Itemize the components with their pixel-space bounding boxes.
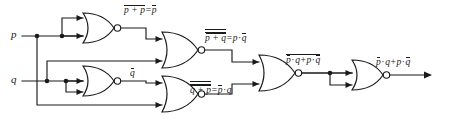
nor-gate-2-output-label: q <box>130 68 135 79</box>
nor4-rhs-right: q <box>227 85 232 95</box>
junction-nor5-out <box>328 71 333 76</box>
arrow-nor5-in-bottom <box>253 81 260 87</box>
arrow-nor6-in-top <box>346 70 353 76</box>
wire-q-to-nor2-bottom <box>66 81 83 92</box>
nor-gate-1 <box>83 13 121 43</box>
nor-gate-3 <box>162 32 205 68</box>
arrow-nor2-in-bottom <box>77 89 84 95</box>
arrow-nor4-in-top <box>156 80 163 86</box>
nor4-lhs: q + p <box>190 81 211 95</box>
nor2-text: q <box>130 68 135 79</box>
nor-gate-4-output-label: q + p=p·q <box>190 81 232 95</box>
nor-gate-3-output-label: p + q=p·q <box>205 29 247 43</box>
nor-gate-2 <box>83 66 121 96</box>
arrow-nor3-in-top <box>156 36 163 42</box>
nor4-rhs-left: p <box>218 85 223 96</box>
arrow-nor4-in-bottom <box>156 102 163 108</box>
arrow-nor3-in-bottom <box>156 58 163 64</box>
nor-gate-3-bubble <box>198 47 204 53</box>
nor3-lhs: p + q <box>205 29 226 43</box>
nor1-rhs: p <box>152 5 157 16</box>
wire-nor5-out-to-nor6-bottom <box>330 73 352 85</box>
arrow-nor1-in-top <box>77 15 84 21</box>
nor-gate-5-bubble <box>295 70 301 76</box>
nor3-rhs-left: p <box>233 33 238 43</box>
nor-gate-3-body <box>162 32 198 68</box>
nor-gate-1-bubble <box>114 25 120 31</box>
nor-gate-5-output-label: p·q+p·q <box>286 54 320 66</box>
junction-p-1 <box>35 34 40 39</box>
final-output-label: p·q+p·q <box>376 57 410 68</box>
junction-q-2 <box>64 79 69 84</box>
nor3-lhs-inner: p + q <box>205 33 226 44</box>
logic-circuit-diagram: p q p + p=p q p + q=p·q q + p=p·q p·q+p·… <box>0 0 449 129</box>
nor5-t2-right: q <box>316 55 321 66</box>
nor-gate-1-body <box>83 13 114 43</box>
wire-nor3-out-to-nor5 <box>205 50 259 62</box>
nor5-t1-left: p <box>286 55 291 66</box>
nor-gate-2-body <box>83 66 114 96</box>
nor4-lhs-inner: q + p <box>190 85 211 96</box>
out-t1-left: p <box>376 57 381 68</box>
arrow-final-output <box>424 72 432 79</box>
nor-gate-2-bubble <box>114 78 120 84</box>
nor-gate-6-bubble <box>383 72 389 78</box>
arrow-nor2-in-top <box>77 78 84 84</box>
arrow-nor6-in-bottom <box>346 82 353 88</box>
junction-q-1 <box>45 79 50 84</box>
wire-p-to-nor1-top <box>62 18 83 36</box>
nor5-expr: p·q+p·q <box>286 54 320 66</box>
nor3-rhs-right: q <box>242 33 247 44</box>
input-label-p: p <box>11 29 17 40</box>
junction-p-2 <box>60 34 65 39</box>
input-label-q: q <box>11 74 17 85</box>
nor-gate-1-output-label: p + p=p <box>124 5 157 16</box>
arrow-nor1-in-bottom <box>77 33 84 39</box>
nor1-lhs: p + p <box>124 5 145 16</box>
arrow-nor5-in-top <box>253 59 260 65</box>
out-t2-right: q <box>406 57 411 68</box>
